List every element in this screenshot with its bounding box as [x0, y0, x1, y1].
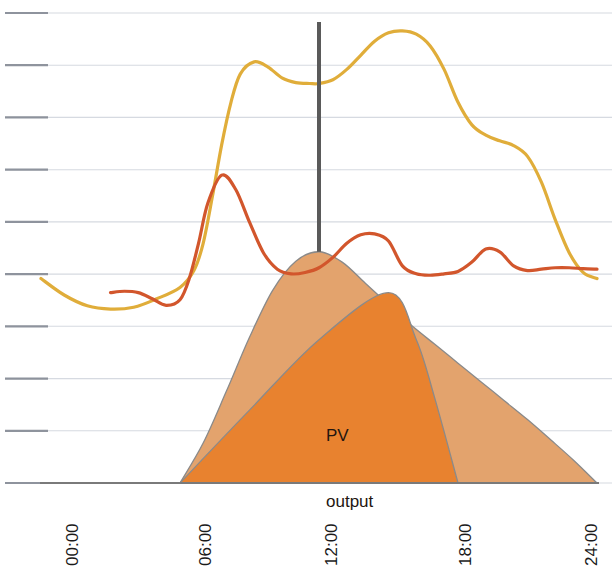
xtick-label-2400: 24:00	[582, 523, 602, 566]
pv-output-chart: 00:00 06:00 12:00 18:00 24:00 PV output	[0, 0, 616, 568]
xtick-label-0000: 00:00	[63, 523, 83, 566]
pv-areas-group	[180, 252, 597, 483]
xtick-label-1200: 12:00	[322, 523, 342, 566]
chart-canvas	[0, 0, 616, 568]
xtick-label-0600: 06:00	[196, 523, 216, 566]
xtick-label-1800: 18:00	[456, 523, 476, 566]
